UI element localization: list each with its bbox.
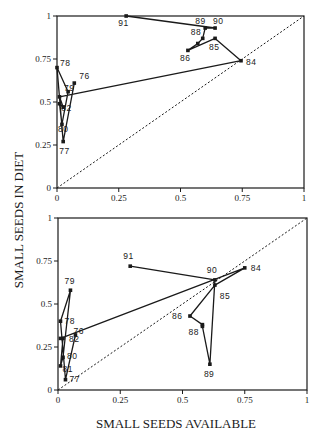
- y-tick-label: 0: [48, 385, 53, 395]
- x-tick-label: 1: [305, 395, 310, 405]
- y-tick-label: 0.75: [36, 256, 52, 266]
- data-point-marker: [208, 362, 212, 366]
- x-tick-label: 1: [302, 193, 307, 203]
- year-label: 82: [61, 103, 71, 113]
- bottom-scatter-panel: 000.250.250.50.50.750.751176777879808182…: [36, 213, 309, 405]
- year-label: 91: [118, 18, 128, 28]
- data-point-marker: [128, 264, 132, 268]
- year-label: 82: [69, 334, 79, 344]
- y-axis-title: SMALL SEEDS IN DIET: [11, 152, 26, 288]
- data-point-marker: [188, 314, 192, 318]
- year-label: 86: [172, 311, 182, 321]
- year-label: 86: [180, 53, 190, 63]
- data-point-marker: [58, 95, 62, 99]
- year-label: 78: [60, 58, 70, 68]
- data-point-marker: [55, 66, 59, 70]
- year-label: 91: [123, 251, 133, 261]
- data-point-marker: [243, 266, 247, 270]
- data-point-marker: [213, 283, 217, 287]
- year-label: 80: [58, 124, 68, 134]
- data-point-marker: [213, 26, 217, 30]
- x-tick-label: 0.25: [111, 193, 127, 203]
- data-point-marker: [69, 288, 73, 292]
- year-label: 79: [64, 83, 74, 93]
- year-label: 88: [188, 327, 198, 337]
- y-tick-label: 0.75: [35, 54, 51, 64]
- y-tick-label: 1: [48, 213, 53, 223]
- data-point-marker: [61, 356, 65, 360]
- year-label: 77: [69, 374, 79, 384]
- year-label: 77: [59, 146, 69, 156]
- data-point-marker: [203, 26, 207, 30]
- y-tick-label: 0.25: [36, 342, 52, 352]
- data-point-marker: [61, 140, 65, 144]
- y-tick-label: 1: [47, 11, 52, 21]
- y-tick-label: 0.5: [40, 97, 52, 107]
- year-label: 80: [67, 351, 77, 361]
- y-tick-label: 0.5: [41, 299, 53, 309]
- year-label: 88: [191, 27, 201, 37]
- year-label: 78: [64, 316, 74, 326]
- data-point-marker: [59, 319, 63, 323]
- x-tick-label: 0: [56, 395, 61, 405]
- chart-canvas: 000.250.250.50.50.750.751176777879808284…: [0, 0, 321, 440]
- data-point-marker: [64, 378, 68, 382]
- data-point-marker: [196, 42, 200, 46]
- data-point-marker: [239, 59, 243, 63]
- top-scatter-panel: 000.250.250.50.50.750.751176777879808284…: [35, 11, 306, 203]
- data-point-marker: [59, 337, 63, 341]
- year-label: 84: [251, 263, 261, 273]
- year-label: 90: [207, 265, 217, 275]
- x-tick-label: 0: [55, 193, 60, 203]
- year-label: 81: [62, 364, 72, 374]
- y-tick-label: 0.25: [35, 140, 51, 150]
- diagonal-reference-line: [58, 218, 307, 390]
- year-label: 90: [213, 16, 223, 26]
- diagonal-reference-line: [57, 16, 304, 188]
- data-point-marker: [213, 278, 217, 282]
- x-axis-title: SMALL SEEDS AVAILABLE: [96, 416, 256, 431]
- x-tick-label: 0.75: [237, 395, 253, 405]
- year-trajectory-line: [61, 266, 245, 380]
- year-label: 76: [79, 71, 89, 81]
- year-label: 85: [209, 42, 219, 52]
- year-label: 84: [246, 57, 256, 67]
- x-tick-label: 0.25: [112, 395, 128, 405]
- data-point-marker: [201, 37, 205, 41]
- data-point-marker: [186, 49, 190, 53]
- year-label: 79: [64, 276, 74, 286]
- y-tick-label: 0: [47, 183, 52, 193]
- year-label: 89: [195, 16, 205, 26]
- x-tick-label: 0.5: [177, 395, 189, 405]
- data-point-marker: [201, 325, 205, 329]
- x-tick-label: 0.75: [234, 193, 250, 203]
- year-label: 89: [204, 369, 214, 379]
- x-tick-label: 0.5: [175, 193, 187, 203]
- data-point-marker: [213, 37, 217, 41]
- year-label: 85: [220, 291, 230, 301]
